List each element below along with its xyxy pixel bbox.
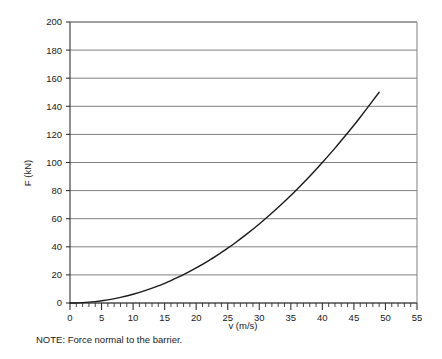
x-tick-label-55: 55 — [412, 312, 423, 323]
chart-note: NOTE: Force normal to the barrier. — [36, 334, 182, 345]
y-tick-label-20: 20 — [51, 269, 62, 280]
y-axis-title: F (kN) — [22, 160, 33, 186]
y-tick-label-200: 200 — [46, 16, 62, 27]
x-tick-label-35: 35 — [286, 312, 297, 323]
y-tick-label-180: 180 — [46, 45, 62, 56]
x-tick-label-15: 15 — [159, 312, 170, 323]
y-tick-label-40: 40 — [51, 241, 62, 252]
y-tick-label-160: 160 — [46, 73, 62, 84]
x-tick-label-50: 50 — [380, 312, 391, 323]
x-tick-label-0: 0 — [67, 312, 72, 323]
x-tick-label-20: 20 — [191, 312, 202, 323]
y-tick-label-60: 60 — [51, 213, 62, 224]
x-tick-label-10: 10 — [128, 312, 139, 323]
x-tick-label-40: 40 — [317, 312, 328, 323]
y-tick-label-140: 140 — [46, 101, 62, 112]
y-tick-label-80: 80 — [51, 185, 62, 196]
x-tick-label-45: 45 — [349, 312, 360, 323]
chart-figure: 020406080100120140160180200 051015202530… — [0, 0, 442, 359]
x-axis-title: v (m/s) — [228, 320, 257, 331]
y-tick-label-100: 100 — [46, 157, 62, 168]
x-tick-label-5: 5 — [99, 312, 104, 323]
force-vs-speed-chart: 020406080100120140160180200 051015202530… — [0, 0, 442, 359]
y-tick-label-120: 120 — [46, 129, 62, 140]
y-tick-label-0: 0 — [57, 297, 62, 308]
